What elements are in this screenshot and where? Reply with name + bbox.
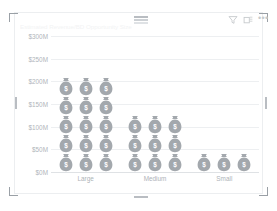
svg-text:$: $ [64,142,68,150]
pictogram-row: $ $ $ [126,153,183,172]
svg-text:$: $ [104,85,108,93]
money-bag-icon: $ [166,115,183,134]
svg-text:$: $ [64,85,68,93]
svg-text:$: $ [104,123,108,131]
pictogram-row: $ $ $ [57,77,114,96]
chart-visual-canvas: ••• Estimated Revenue/BD Opportunity Siz… [0,0,277,211]
y-axis-tick: $300M [16,33,48,40]
pictogram-row: $ $ $ [126,115,183,134]
x-axis-tick-large: Large [51,174,120,183]
money-bag-icon: $ [216,153,233,172]
money-bag-icon: $ [126,134,143,153]
money-bag-icon: $ [77,77,94,96]
money-bag-icon: $ [146,153,163,172]
svg-text:$: $ [243,161,247,169]
money-bag-icon: $ [97,115,114,134]
svg-text:$: $ [84,85,88,93]
pictogram-stack: $ $ $ [196,153,253,172]
money-bag-icon: $ [97,96,114,115]
svg-text:$: $ [203,161,207,169]
svg-text:$: $ [223,161,227,169]
axis-baseline [51,172,259,173]
visual-header-toolbar: ••• [228,14,269,25]
money-bag-icon: $ [57,134,74,153]
money-bag-icon: $ [126,115,143,134]
x-axis: Large Medium Small [51,174,259,183]
svg-text:$: $ [133,123,137,131]
money-bag-icon: $ [97,77,114,96]
y-axis-tick: $250M [16,55,48,62]
svg-text:$: $ [173,161,177,169]
svg-text:$: $ [153,123,157,131]
money-bag-icon: $ [57,96,74,115]
y-axis-tick: $50M [16,146,48,153]
pictogram-row: $ $ $ [57,134,114,153]
svg-text:$: $ [64,161,68,169]
focus-mode-icon[interactable] [243,15,253,25]
resize-handle-bottom-right[interactable] [259,187,268,196]
pictogram-column-small[interactable]: $ $ $ [190,36,259,172]
svg-text:$: $ [133,161,137,169]
svg-text:$: $ [173,142,177,150]
pictogram-row: $ $ $ [196,153,253,172]
pictogram-stack: $ $ $ $ $ $ $ $ [126,115,183,172]
svg-text:$: $ [104,142,108,150]
resize-handle-top-left[interactable] [9,13,18,22]
money-bag-icon: $ [146,134,163,153]
money-bag-icon: $ [77,115,94,134]
money-bag-icon: $ [57,115,74,134]
svg-text:$: $ [64,104,68,112]
money-bag-icon: $ [126,153,143,172]
svg-text:$: $ [133,142,137,150]
resize-handle-bottom-left[interactable] [9,187,18,196]
more-options-icon[interactable]: ••• [258,14,269,23]
money-bag-icon: $ [166,153,183,172]
pictogram-column-large[interactable]: $ $ $ $ $ $ $ $ [51,36,120,172]
y-axis-tick: $100M [16,123,48,130]
svg-text:$: $ [64,123,68,131]
money-bag-icon: $ [236,153,253,172]
y-axis-tick: $200M [16,78,48,85]
money-bag-icon: $ [196,153,213,172]
svg-text:$: $ [104,104,108,112]
x-axis-tick-small: Small [190,174,259,183]
money-bag-icon: $ [77,153,94,172]
svg-text:$: $ [84,123,88,131]
svg-text:$: $ [104,161,108,169]
y-axis-tick: $150M [16,101,48,108]
plot-area: $300M $250M $200M $150M $100M $50M $0M $… [18,36,259,188]
svg-text:$: $ [84,104,88,112]
money-bag-icon: $ [77,96,94,115]
resize-handle-middle-right[interactable] [265,97,267,109]
svg-text:$: $ [173,123,177,131]
resize-handle-top-center[interactable] [134,16,148,18]
svg-text:$: $ [153,142,157,150]
pictogram-stack: $ $ $ $ $ $ $ $ [57,77,114,172]
money-bag-icon: $ [97,153,114,172]
y-axis-tick: $0M [16,169,48,176]
filter-icon[interactable] [228,15,238,25]
pictogram-row: $ $ $ [57,96,114,115]
resize-handle-bottom-center[interactable] [134,196,148,198]
y-axis: $300M $250M $200M $150M $100M $50M $0M [18,36,50,172]
pictogram-column-medium[interactable]: $ $ $ $ $ $ $ $ [120,36,189,172]
money-bag-icon: $ [97,134,114,153]
chart-title: Estimated Revenue/BD Opportunity Size [20,22,210,31]
svg-text:$: $ [153,161,157,169]
svg-text:$: $ [84,142,88,150]
money-bag-icon: $ [166,134,183,153]
pictogram-row: $ $ $ [57,153,114,172]
pictogram-row: $ $ $ [126,134,183,153]
money-bag-icon: $ [57,77,74,96]
x-axis-tick-medium: Medium [120,174,189,183]
pictogram-row: $ $ $ [57,115,114,134]
pictogram-columns: $ $ $ $ $ $ $ $ [51,36,259,172]
money-bag-icon: $ [77,134,94,153]
money-bag-icon: $ [146,115,163,134]
svg-text:$: $ [84,161,88,169]
money-bag-icon: $ [57,153,74,172]
